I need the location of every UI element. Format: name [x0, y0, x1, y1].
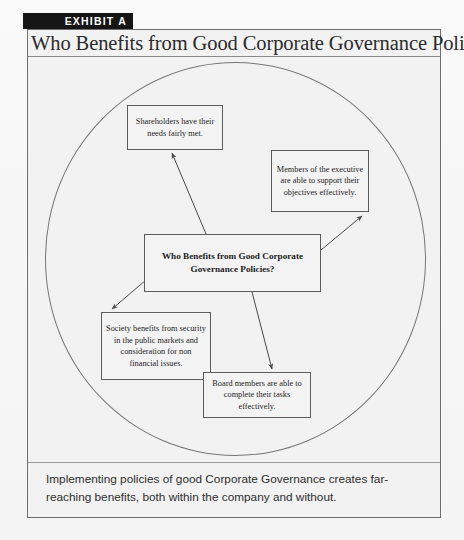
diagram-node-society: Society benefits from security in the pu… [101, 312, 211, 380]
page-title: Who Benefits from Good Corporate Governa… [31, 31, 439, 55]
diagram-node-center: Who Benefits from Good Corporate Governa… [144, 234, 321, 292]
diagram-node-executive: Members of the executive are able to sup… [271, 150, 369, 212]
exhibit-caption: Implementing policies of good Corporate … [46, 471, 418, 506]
title-divider [28, 56, 440, 57]
diagram-node-shareholders: Shareholders have their needs fairly met… [127, 105, 223, 150]
exhibit-page: EXHIBIT A Who Benefits from Good Corpora… [0, 0, 464, 540]
diagram-node-board: Board members are able to complete their… [203, 372, 311, 418]
exhibit-banner: EXHIBIT A [23, 13, 133, 29]
caption-divider [28, 462, 440, 463]
